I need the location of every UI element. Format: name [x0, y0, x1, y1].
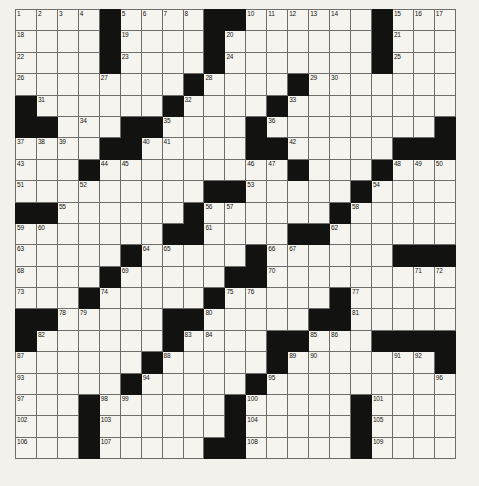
crossword-cell[interactable]: 13 [309, 10, 330, 31]
crossword-cell[interactable] [288, 416, 309, 437]
crossword-cell[interactable]: 60 [36, 223, 57, 244]
crossword-cell[interactable] [141, 31, 162, 52]
crossword-cell[interactable]: 78 [57, 309, 78, 330]
crossword-cell[interactable] [267, 395, 288, 416]
crossword-cell[interactable]: 21 [392, 31, 413, 52]
crossword-cell[interactable] [162, 52, 183, 73]
crossword-cell[interactable] [78, 352, 99, 373]
crossword-cell[interactable] [162, 395, 183, 416]
crossword-cell[interactable]: 33 [288, 95, 309, 116]
crossword-cell[interactable]: 39 [57, 138, 78, 159]
crossword-cell[interactable] [392, 309, 413, 330]
crossword-cell[interactable]: 57 [225, 202, 246, 223]
crossword-cell[interactable] [434, 309, 455, 330]
crossword-cell[interactable]: 68 [16, 266, 37, 287]
crossword-cell[interactable]: 97 [16, 395, 37, 416]
crossword-cell[interactable] [392, 116, 413, 137]
crossword-cell[interactable] [309, 245, 330, 266]
crossword-cell[interactable]: 104 [246, 416, 267, 437]
crossword-cell[interactable] [204, 245, 225, 266]
crossword-cell[interactable]: 102 [16, 416, 37, 437]
crossword-cell[interactable] [246, 74, 267, 95]
crossword-cell[interactable]: 35 [162, 116, 183, 137]
crossword-cell[interactable]: 1 [16, 10, 37, 31]
crossword-cell[interactable] [288, 437, 309, 458]
crossword-cell[interactable]: 77 [351, 288, 372, 309]
crossword-cell[interactable]: 50 [434, 159, 455, 180]
crossword-cell[interactable] [413, 95, 434, 116]
crossword-cell[interactable]: 55 [57, 202, 78, 223]
crossword-cell[interactable] [392, 416, 413, 437]
crossword-cell[interactable] [246, 31, 267, 52]
crossword-cell[interactable] [120, 437, 141, 458]
crossword-cell[interactable] [309, 202, 330, 223]
crossword-cell[interactable] [246, 223, 267, 244]
crossword-cell[interactable] [246, 352, 267, 373]
crossword-cell[interactable] [36, 266, 57, 287]
crossword-cell[interactable] [434, 416, 455, 437]
crossword-cell[interactable] [36, 288, 57, 309]
crossword-cell[interactable] [267, 309, 288, 330]
crossword-cell[interactable] [434, 181, 455, 202]
crossword-cell[interactable]: 25 [392, 52, 413, 73]
crossword-cell[interactable]: 43 [16, 159, 37, 180]
crossword-cell[interactable]: 3 [57, 10, 78, 31]
crossword-cell[interactable]: 47 [267, 159, 288, 180]
crossword-cell[interactable] [183, 373, 204, 394]
crossword-cell[interactable] [225, 74, 246, 95]
crossword-cell[interactable] [413, 52, 434, 73]
crossword-cell[interactable] [162, 288, 183, 309]
crossword-cell[interactable] [267, 288, 288, 309]
crossword-cell[interactable] [309, 138, 330, 159]
crossword-cell[interactable] [246, 309, 267, 330]
crossword-cell[interactable] [371, 116, 392, 137]
crossword-cell[interactable]: 76 [246, 288, 267, 309]
crossword-cell[interactable] [225, 373, 246, 394]
crossword-cell[interactable] [78, 31, 99, 52]
crossword-cell[interactable] [120, 288, 141, 309]
crossword-cell[interactable] [120, 223, 141, 244]
crossword-cell[interactable] [36, 352, 57, 373]
crossword-cell[interactable] [392, 373, 413, 394]
crossword-cell[interactable] [162, 437, 183, 458]
crossword-cell[interactable] [392, 95, 413, 116]
crossword-cell[interactable]: 86 [330, 330, 351, 351]
crossword-cell[interactable] [413, 116, 434, 137]
crossword-cell[interactable] [351, 373, 372, 394]
crossword-cell[interactable] [371, 352, 392, 373]
crossword-cell[interactable] [267, 416, 288, 437]
crossword-cell[interactable]: 63 [16, 245, 37, 266]
crossword-cell[interactable] [288, 288, 309, 309]
crossword-cell[interactable] [309, 266, 330, 287]
crossword-cell[interactable]: 15 [392, 10, 413, 31]
crossword-cell[interactable] [392, 266, 413, 287]
crossword-cell[interactable] [351, 245, 372, 266]
crossword-cell[interactable] [183, 181, 204, 202]
crossword-cell[interactable] [225, 138, 246, 159]
crossword-cell[interactable] [57, 95, 78, 116]
crossword-cell[interactable]: 44 [99, 159, 120, 180]
crossword-cell[interactable] [99, 116, 120, 137]
crossword-cell[interactable] [371, 309, 392, 330]
crossword-cell[interactable] [351, 116, 372, 137]
crossword-cell[interactable]: 46 [246, 159, 267, 180]
crossword-cell[interactable] [57, 416, 78, 437]
crossword-cell[interactable] [225, 223, 246, 244]
crossword-cell[interactable] [99, 223, 120, 244]
crossword-cell[interactable] [225, 245, 246, 266]
crossword-cell[interactable] [267, 223, 288, 244]
crossword-cell[interactable] [57, 74, 78, 95]
crossword-cell[interactable]: 34 [78, 116, 99, 137]
crossword-cell[interactable]: 106 [16, 437, 37, 458]
crossword-cell[interactable] [99, 245, 120, 266]
crossword-cell[interactable] [78, 245, 99, 266]
crossword-cell[interactable] [246, 330, 267, 351]
crossword-cell[interactable] [434, 288, 455, 309]
crossword-cell[interactable]: 93 [16, 373, 37, 394]
crossword-cell[interactable] [141, 181, 162, 202]
crossword-cell[interactable] [351, 266, 372, 287]
crossword-cell[interactable] [392, 395, 413, 416]
crossword-cell[interactable]: 90 [309, 352, 330, 373]
crossword-cell[interactable] [141, 202, 162, 223]
crossword-cell[interactable] [288, 309, 309, 330]
